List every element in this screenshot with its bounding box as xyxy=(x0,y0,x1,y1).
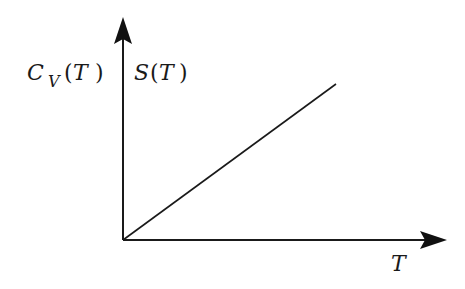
x-axis-label: T xyxy=(391,251,408,276)
svg-text:(: ( xyxy=(64,60,73,85)
linear-curve xyxy=(123,84,336,240)
svg-text:(: ( xyxy=(150,60,159,85)
svg-text:S: S xyxy=(134,60,149,85)
y-axis-label-cv: C V ( T ) xyxy=(27,60,104,91)
svg-text:): ) xyxy=(95,60,104,85)
y-axis-label-s: S ( T ) xyxy=(134,60,188,85)
svg-text:): ) xyxy=(179,60,188,85)
svg-text:C: C xyxy=(27,60,44,85)
diagram-canvas: C V ( T ) S ( T ) T xyxy=(0,0,465,289)
svg-text:T: T xyxy=(73,60,90,85)
svg-text:V: V xyxy=(48,72,61,91)
svg-text:T: T xyxy=(159,60,176,85)
